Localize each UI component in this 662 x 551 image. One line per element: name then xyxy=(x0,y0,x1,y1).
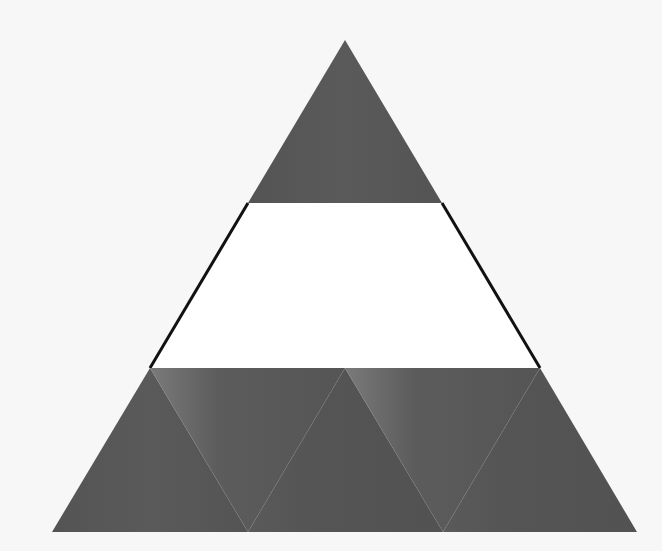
triangle-diagram xyxy=(0,0,662,551)
top-triangle xyxy=(248,40,442,203)
middle-trapezoid xyxy=(150,203,540,368)
